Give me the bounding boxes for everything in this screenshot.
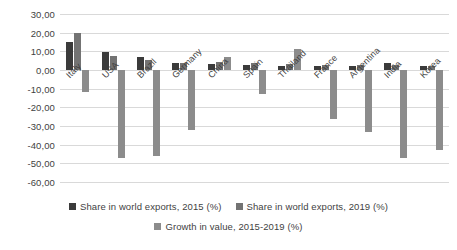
y-axis-tick-label: -20,00 <box>3 102 55 113</box>
bar-group: Argentina <box>343 14 378 182</box>
bar-group: Brazil <box>131 14 166 182</box>
y-axis-tick-label: -60,00 <box>3 177 55 188</box>
legend-row-secondary: Growth in value, 2015-2019 (%) <box>0 216 457 236</box>
legend-label: Share in world exports, 2015 (%) <box>80 201 222 212</box>
y-axis-tick-label: -30,00 <box>3 121 55 132</box>
bar <box>259 70 266 94</box>
y-axis-tick-label: -50,00 <box>3 158 55 169</box>
plot-area: ItalyUSABrazilGermanyChinaSpainThailandF… <box>60 14 449 182</box>
bar-group: Korea <box>414 14 449 182</box>
legend-swatch-icon <box>154 223 161 230</box>
legend-row-primary: Share in world exports, 2015 (%) Share i… <box>0 196 457 216</box>
x-axis-category-label: Thailand <box>276 48 308 80</box>
bar <box>153 70 160 156</box>
legend-swatch-icon <box>69 203 76 210</box>
bar <box>330 70 337 119</box>
y-axis-tick-label: -40,00 <box>3 139 55 150</box>
legend-item-share-2019[interactable]: Share in world exports, 2019 (%) <box>236 201 389 212</box>
y-axis-tick-labels: 30,0020,0010,000,00-10,00-20,00-30,00-40… <box>0 14 60 182</box>
y-axis-tick-label: 30,00 <box>3 9 55 20</box>
bar-group: Spain <box>237 14 272 182</box>
bar <box>82 70 89 92</box>
bar-group: Italy <box>60 14 95 182</box>
y-axis-tick-label: 0,00 <box>3 65 55 76</box>
bar-group: China <box>201 14 236 182</box>
legend-swatch-icon <box>236 203 243 210</box>
y-axis-tick-label: 20,00 <box>3 27 55 38</box>
chart-legend: Share in world exports, 2015 (%) Share i… <box>0 196 457 236</box>
bar-group: India <box>378 14 413 182</box>
legend-label: Share in world exports, 2019 (%) <box>247 201 389 212</box>
bar <box>188 70 195 130</box>
bar <box>436 70 443 150</box>
bar-group: Thailand <box>272 14 307 182</box>
gridline <box>60 182 449 183</box>
bar <box>365 70 372 132</box>
bar-chart: 30,0020,0010,000,00-10,00-20,00-30,00-40… <box>0 0 457 250</box>
legend-label: Growth in value, 2015-2019 (%) <box>165 221 302 232</box>
bar-group: USA <box>95 14 130 182</box>
bar <box>118 70 125 158</box>
bar <box>400 70 407 158</box>
bar-group: Germany <box>166 14 201 182</box>
y-axis-tick-label: -10,00 <box>3 83 55 94</box>
legend-item-growth[interactable]: Growth in value, 2015-2019 (%) <box>154 221 302 232</box>
legend-item-share-2015[interactable]: Share in world exports, 2015 (%) <box>69 201 222 212</box>
bar-group: France <box>308 14 343 182</box>
y-axis-tick-label: 10,00 <box>3 46 55 57</box>
